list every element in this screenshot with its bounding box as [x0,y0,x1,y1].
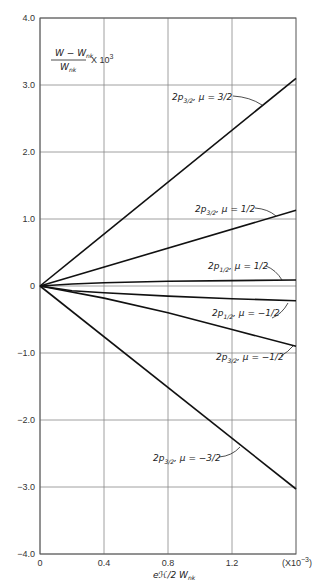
annotation-2p12-mu-1-2: 2p1/2, μ = 1/2 [208,261,282,280]
annotation-2p12-mu-minus-1-2: 2p1/2, μ = −1/2 [212,303,288,320]
x-tick-label: 0.4 [98,558,111,568]
svg-text:2p3/2, μ = 3/2: 2p3/2, μ = 3/2 [172,92,233,104]
y-tick-label: −3.0 [17,482,35,492]
x-tick-label: 1.2 [226,558,239,568]
x-tick-label: 0.8 [162,558,175,568]
svg-text:eℋ/2 Wnk: eℋ/2 Wnk [153,570,196,581]
svg-text:2p3/2, μ = −1/2: 2p3/2, μ = −1/2 [216,352,284,364]
annotation-2p32-mu-minus-3-2: 2p3/2, μ = −3/2 [153,447,240,465]
annotation-2p32-mu-minus-1-2: 2p3/2, μ = −1/2 [216,346,293,364]
y-tick-label: 0 [30,281,35,291]
svg-text:(X10−3): (X10−3) [282,556,312,568]
y-tick-label: −4.0 [17,549,35,559]
x-axis-ticks: 00.40.81.2 [37,558,238,568]
svg-text:2p3/2, μ = −3/2: 2p3/2, μ = −3/2 [153,453,221,465]
chart: 4.03.02.01.00−1.0−2.0−3.0−4.0 00.40.81.2… [0,0,325,588]
y-tick-label: −1.0 [17,348,35,358]
y-tick-label: 1.0 [22,214,35,224]
y-axis-ticks: 4.03.02.01.00−1.0−2.0−3.0−4.0 [17,13,35,559]
annotation-2p32-mu-1-2: 2p3/2, μ = 1/2 [195,204,276,216]
svg-text:Wnk: Wnk [60,62,77,73]
y-tick-label: 4.0 [22,13,35,23]
x-tick-label: 0 [37,558,42,568]
y-tick-label: 2.0 [22,147,35,157]
svg-text:2p3/2, μ = 1/2: 2p3/2, μ = 1/2 [195,204,256,216]
svg-text:X 103: X 103 [91,53,114,65]
svg-text:2p1/2, μ = −1/2: 2p1/2, μ = −1/2 [212,308,280,320]
annotation-2p32-mu-3-2: 2p3/2, μ = 3/2 [172,92,262,105]
y-tick-label: −2.0 [17,415,35,425]
svg-text:2p1/2, μ = 1/2: 2p1/2, μ = 1/2 [208,261,269,273]
grid-lines [40,18,296,554]
svg-text:W − Wnk: W − Wnk [55,48,94,59]
y-tick-label: 3.0 [22,80,35,90]
